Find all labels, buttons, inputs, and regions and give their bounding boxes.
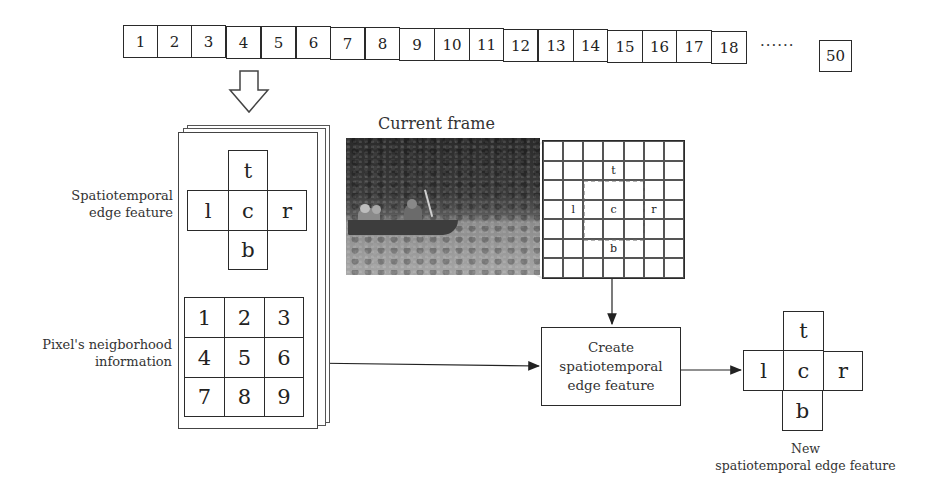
process-line: Create [588, 338, 634, 357]
create-feature-process-box: Create spatiotemporal edge feature [541, 327, 681, 406]
process-line: spatiotemporal [559, 357, 662, 376]
new-edge-top: t [783, 311, 824, 351]
new-edge-bottom: b [782, 390, 823, 431]
new-edge-feature-caption: New spatiotemporal edge feature [698, 440, 913, 474]
new-edge-left: l [743, 350, 784, 391]
new-edge-center: c [783, 350, 824, 391]
caption-line: New [698, 440, 913, 457]
caption-line: spatiotemporal edge feature [698, 457, 913, 474]
process-line: edge feature [567, 376, 654, 395]
new-edge-right: r [823, 351, 863, 391]
